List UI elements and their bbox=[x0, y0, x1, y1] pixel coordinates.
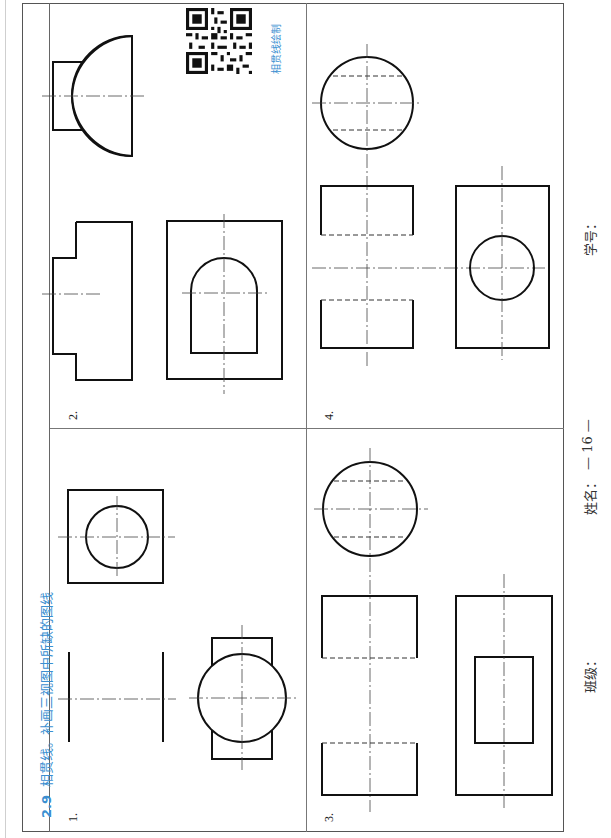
problem-3-drawing bbox=[314, 448, 552, 812]
technical-drawings bbox=[0, 0, 611, 838]
problem-1-drawing bbox=[58, 490, 296, 770]
problem-2-drawing bbox=[42, 36, 282, 394]
name-label: 姓名： bbox=[580, 476, 599, 515]
problem-4-drawing bbox=[312, 44, 549, 366]
student-id-label: 学号： bbox=[580, 217, 599, 256]
page-number: — 16 — bbox=[580, 419, 595, 470]
class-label: 班级： bbox=[580, 654, 599, 693]
